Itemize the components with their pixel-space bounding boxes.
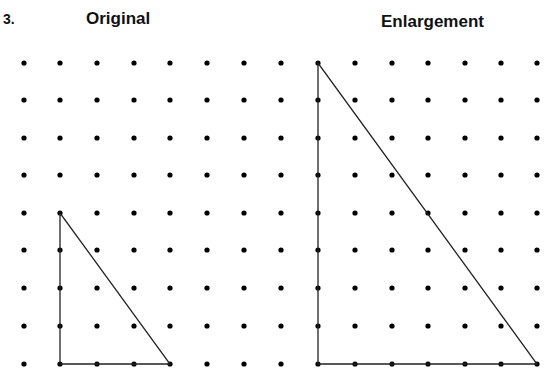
- grid-dot: [241, 285, 246, 290]
- grid-dot: [462, 135, 467, 140]
- grid-dot: [241, 210, 246, 215]
- grid-dot: [278, 323, 283, 328]
- grid-dot: [204, 285, 209, 290]
- grid-dot: [498, 172, 503, 177]
- grid-dot: [389, 210, 394, 215]
- grid-dot: [425, 135, 430, 140]
- grid-dot: [131, 285, 136, 290]
- grid-dot: [498, 60, 503, 65]
- grid-dot: [131, 247, 136, 252]
- grid-dot: [241, 60, 246, 65]
- grid-dot: [278, 361, 283, 366]
- grid-dot: [131, 135, 136, 140]
- grid-dot: [462, 60, 467, 65]
- grid-dot: [278, 60, 283, 65]
- grid-dot: [204, 135, 209, 140]
- grid-dot: [167, 60, 172, 65]
- grid-dot: [389, 172, 394, 177]
- grid-dot: [241, 172, 246, 177]
- grid-dot: [462, 172, 467, 177]
- grid-dot: [167, 172, 172, 177]
- grid-dot: [204, 97, 209, 102]
- grid-dot: [352, 172, 357, 177]
- grid-dot: [498, 97, 503, 102]
- grid-dot: [278, 247, 283, 252]
- grid-dot: [462, 285, 467, 290]
- grid-dot: [241, 361, 246, 366]
- grid-dot: [21, 172, 26, 177]
- dot-grid: [0, 0, 552, 379]
- grid-dot: [241, 247, 246, 252]
- grid-dot: [534, 172, 539, 177]
- grid-dot: [204, 172, 209, 177]
- grid-dot: [534, 323, 539, 328]
- grid-dot: [462, 247, 467, 252]
- grid-dot: [167, 97, 172, 102]
- grid-dot: [57, 97, 62, 102]
- grid-dot: [534, 247, 539, 252]
- grid-dot: [462, 97, 467, 102]
- grid-dot: [352, 210, 357, 215]
- grid-dot: [278, 97, 283, 102]
- grid-dot: [21, 323, 26, 328]
- grid-dot: [94, 97, 99, 102]
- grid-dot: [131, 60, 136, 65]
- grid-dot: [167, 247, 172, 252]
- grid-dot: [167, 135, 172, 140]
- grid-dot: [389, 323, 394, 328]
- grid-dot: [278, 172, 283, 177]
- grid-dot: [498, 210, 503, 215]
- grid-dot: [167, 323, 172, 328]
- grid-dot: [167, 210, 172, 215]
- grid-dot: [21, 210, 26, 215]
- grid-dot: [131, 323, 136, 328]
- grid-dot: [241, 323, 246, 328]
- grid-dot: [425, 247, 430, 252]
- grid-dot: [389, 135, 394, 140]
- grid-dot: [462, 323, 467, 328]
- grid-dot: [57, 60, 62, 65]
- grid-dot: [352, 323, 357, 328]
- grid-dot: [131, 97, 136, 102]
- grid-dot: [241, 135, 246, 140]
- grid-dot: [94, 60, 99, 65]
- grid-dot: [425, 172, 430, 177]
- grid-dot: [278, 210, 283, 215]
- grid-dot: [204, 60, 209, 65]
- grid-dot: [94, 172, 99, 177]
- grid-dot: [389, 247, 394, 252]
- grid-dot: [131, 210, 136, 215]
- grid-dot: [352, 247, 357, 252]
- grid-dot: [204, 247, 209, 252]
- grid-dot: [94, 210, 99, 215]
- grid-dot: [21, 97, 26, 102]
- grid-dot: [534, 97, 539, 102]
- grid-dot: [21, 361, 26, 366]
- grid-dot: [21, 247, 26, 252]
- grid-dot: [131, 172, 136, 177]
- grid-dot: [21, 285, 26, 290]
- grid-dot: [425, 97, 430, 102]
- original-triangle: [60, 213, 170, 364]
- grid-dot: [278, 285, 283, 290]
- grid-dot: [167, 285, 172, 290]
- grid-dot: [94, 323, 99, 328]
- grid-dot: [94, 285, 99, 290]
- grid-dot: [278, 135, 283, 140]
- grid-dot: [204, 361, 209, 366]
- grid-dot: [425, 60, 430, 65]
- grid-dot: [534, 135, 539, 140]
- grid-dot: [94, 135, 99, 140]
- grid-dot: [21, 60, 26, 65]
- grid-dot: [389, 285, 394, 290]
- grid-dot: [57, 172, 62, 177]
- grid-dot: [498, 135, 503, 140]
- grid-dot: [534, 60, 539, 65]
- grid-dot: [204, 210, 209, 215]
- grid-dot: [21, 135, 26, 140]
- grid-dot: [352, 285, 357, 290]
- grid-dot: [352, 97, 357, 102]
- grid-dot: [498, 285, 503, 290]
- grid-dot: [534, 285, 539, 290]
- grid-dot: [241, 97, 246, 102]
